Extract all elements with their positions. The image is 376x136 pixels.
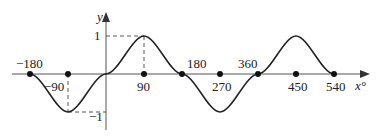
point-360 [255, 71, 261, 77]
x-tick-450: 450 [288, 79, 308, 94]
x-tick-540: 540 [326, 79, 346, 94]
point-180 [179, 71, 185, 77]
y-axis-arrow-icon [102, 12, 110, 22]
point-m90 [65, 71, 71, 77]
point-540 [331, 71, 337, 77]
point-270 [217, 71, 223, 77]
x-tick-m180: −180 [16, 56, 43, 71]
graph-canvas: y 1 −1 −180 −90 90 180 270 360 450 540 x… [0, 0, 376, 136]
y-axis-label: y [95, 9, 103, 24]
point-90 [141, 71, 147, 77]
point-450 [293, 71, 299, 77]
x-tick-90: 90 [137, 79, 150, 94]
y-tick-1: 1 [94, 28, 101, 43]
x-axis-label: x° [354, 78, 366, 93]
x-tick-m90: −90 [44, 79, 64, 94]
y-tick-minus-1: −1 [89, 109, 103, 124]
x-tick-180: 180 [187, 56, 207, 71]
x-tick-360: 360 [238, 56, 258, 71]
x-tick-270: 270 [212, 79, 232, 94]
sine-graph-diagram: y 1 −1 −180 −90 90 180 270 360 450 540 x… [0, 0, 376, 136]
x-axis-arrow-icon [360, 70, 370, 78]
point-m180 [27, 71, 33, 77]
